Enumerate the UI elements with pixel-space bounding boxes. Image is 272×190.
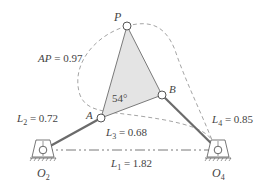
joint-B — [158, 91, 166, 99]
joint-A — [97, 114, 105, 122]
rocker-link-L4 — [162, 95, 218, 150]
label-B: B — [169, 83, 176, 95]
label-A: A — [85, 109, 93, 121]
ground-pivot-O2 — [30, 140, 56, 161]
label-O4: O4 — [212, 166, 225, 182]
label-L3: L3 = 0.68 — [105, 126, 148, 141]
label-L4: L4 = 0.85 — [211, 113, 254, 128]
label-L1: L1 = 1.82 — [110, 157, 152, 172]
four-bar-linkage-diagram: P A B 54° AP = 0.97 L2 = 0.72 L3 = 0.68 … — [0, 0, 272, 190]
joint-P — [123, 22, 131, 30]
label-AP: AP = 0.97 — [37, 52, 83, 64]
label-P: P — [113, 10, 122, 24]
angle-label: 54° — [112, 92, 127, 104]
label-L2: L2 = 0.72 — [16, 112, 58, 127]
label-O2: O2 — [37, 166, 50, 182]
ground-pivot-O4 — [205, 140, 231, 161]
coupler-triangle — [101, 26, 162, 118]
